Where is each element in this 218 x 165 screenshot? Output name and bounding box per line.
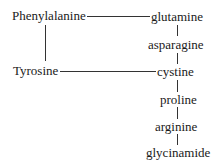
node-glutamine: glutamine <box>151 10 203 24</box>
edge-glutamine-asparagine <box>177 25 178 36</box>
edge-tyrosine-cystine <box>60 71 156 72</box>
node-cystine: cystine <box>157 65 194 79</box>
edge-phenylalanine-tyrosine <box>45 25 46 61</box>
edge-phenylalanine-glutamine <box>87 16 150 17</box>
node-arginine: arginine <box>155 120 197 134</box>
node-phenylalanine: Phenylalanine <box>12 9 86 23</box>
edge-arginine-glycinamide <box>177 134 178 145</box>
edge-asparagine-cystine <box>177 53 178 64</box>
node-tyrosine: Tyrosine <box>13 64 58 78</box>
node-asparagine: asparagine <box>148 38 204 52</box>
node-glycinamide: glycinamide <box>146 146 210 160</box>
edge-proline-arginine <box>177 107 178 119</box>
edge-cystine-proline <box>177 80 178 92</box>
node-proline: proline <box>160 93 197 107</box>
